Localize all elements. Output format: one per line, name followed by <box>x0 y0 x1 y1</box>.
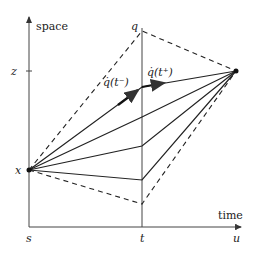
left-velocity-label: q̇(t⁻) <box>103 76 129 89</box>
solid-path-2 <box>29 71 236 170</box>
space-time-diagram: space time z x s t u q q̇(t⁻) q̇(t⁺) <box>0 0 261 256</box>
lower-dashed-bound <box>29 71 236 204</box>
s-label: s <box>26 232 32 245</box>
x-label: x <box>15 164 22 177</box>
space-axis-label: space <box>36 20 68 33</box>
right-velocity-arrow <box>142 83 164 87</box>
right-velocity-label: q̇(t⁺) <box>147 66 173 79</box>
z-label: z <box>10 65 17 78</box>
upper-dashed-bound <box>29 31 236 170</box>
end-point <box>234 69 239 74</box>
q-label: q <box>131 20 138 33</box>
u-label: u <box>233 232 240 245</box>
t-label: t <box>140 232 145 245</box>
start-point <box>27 168 32 173</box>
time-axis-label: time <box>218 209 243 222</box>
left-velocity-arrow <box>118 90 138 105</box>
